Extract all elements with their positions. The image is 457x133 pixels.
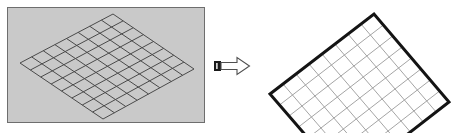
grid-line	[43, 51, 126, 107]
grid-line	[361, 24, 436, 112]
grid-line	[113, 14, 194, 69]
grid-line	[309, 64, 385, 133]
arrow-right-icon	[213, 53, 251, 79]
figure-root	[0, 0, 457, 133]
grid-line	[101, 20, 182, 75]
source-mesh-photo-panel	[7, 7, 205, 123]
grid-line	[322, 54, 398, 133]
transform-arrow	[213, 53, 251, 79]
grid-line	[308, 58, 412, 133]
mesh-outline	[270, 14, 449, 133]
grid-line	[348, 34, 423, 122]
arrow-body	[221, 58, 250, 75]
grid-line	[90, 26, 172, 81]
rectified-mesh-panel	[262, 2, 457, 133]
source-mesh-grid	[8, 8, 206, 124]
grid-line	[327, 80, 430, 133]
grid-line	[32, 57, 115, 113]
grid-line	[335, 44, 410, 132]
grid-line	[55, 45, 137, 101]
grid-line	[78, 32, 160, 87]
grid-line	[20, 63, 103, 119]
grid-line	[67, 39, 149, 95]
arrow-tail-notch	[216, 63, 217, 69]
rectified-mesh-grid	[262, 2, 457, 133]
